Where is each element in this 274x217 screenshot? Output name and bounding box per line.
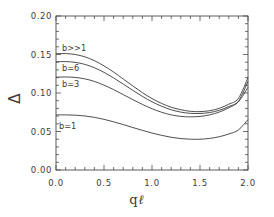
plot-area: b>>1b=6b=3b=1	[0, 0, 274, 217]
curve-annotation: b=1	[59, 121, 76, 131]
curve-annotation: b=6	[62, 63, 79, 73]
curve-annotation: b>>1	[62, 43, 86, 53]
curve-annotation: b=3	[62, 79, 79, 89]
chart-figure: Δ 0.00 0.05 0.10 0.15 0.20 0.0 0.5 1.0 1…	[0, 0, 274, 217]
axes-frame	[56, 16, 248, 170]
